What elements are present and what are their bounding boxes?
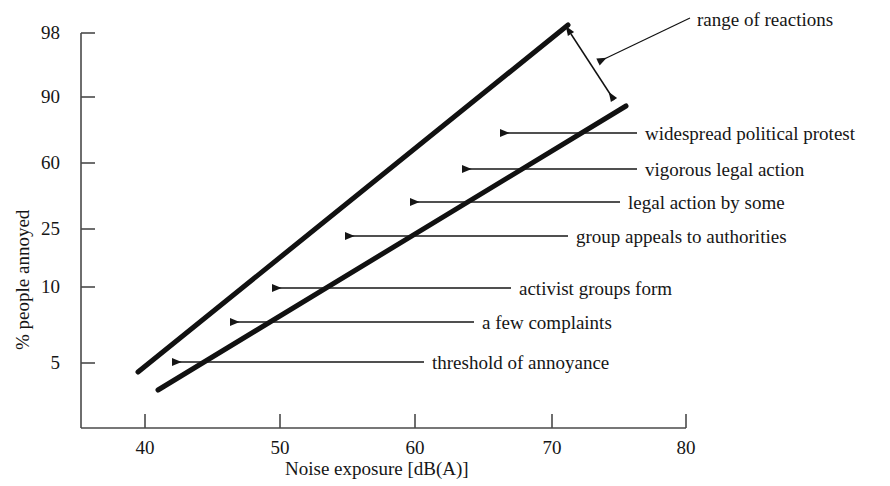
annotation-threshold-of-annoyance: threshold of annoyance bbox=[432, 353, 609, 372]
reaction-band bbox=[138, 25, 626, 390]
y-tick-label-90: 90 bbox=[14, 86, 60, 108]
chart-figure: 98 90 60 25 10 5 40 50 60 70 80 % people… bbox=[0, 0, 890, 486]
range-arrow-shaft bbox=[571, 34, 614, 100]
x-tick-label-70: 70 bbox=[529, 437, 575, 459]
x-tick-label-60: 60 bbox=[392, 437, 438, 459]
annotation-group-appeals-to-authorities: group appeals to authorities bbox=[576, 227, 787, 246]
annotation-range-of-reactions: range of reactions bbox=[697, 10, 833, 29]
lower-bound-line bbox=[158, 106, 626, 390]
x-tick-label-50: 50 bbox=[257, 437, 303, 459]
range-of-reactions-leader bbox=[598, 18, 690, 62]
range-of-reactions-double-arrow bbox=[571, 34, 614, 100]
annotation-activist-groups-form: activist groups form bbox=[519, 279, 672, 298]
annotation-vigorous-legal-action: vigorous legal action bbox=[645, 160, 804, 179]
annotation-a-few-complaints: a few complaints bbox=[482, 313, 612, 332]
annotation-widespread-political-protest: widespread political protest bbox=[645, 124, 855, 143]
range-leader-line bbox=[598, 18, 690, 62]
y-axis-title: % people annoyed bbox=[12, 210, 34, 350]
x-tick-label-40: 40 bbox=[122, 437, 168, 459]
y-tick-label-60: 60 bbox=[14, 152, 60, 174]
x-axis-ticks bbox=[145, 414, 686, 428]
y-axis-ticks bbox=[81, 33, 95, 363]
y-tick-label-5: 5 bbox=[14, 352, 60, 374]
x-tick-label-80: 80 bbox=[663, 437, 709, 459]
annotation-legal-action-by-some: legal action by some bbox=[628, 193, 785, 212]
x-axis-title: Noise exposure [dB(A)] bbox=[285, 458, 469, 480]
y-tick-label-98: 98 bbox=[14, 22, 60, 44]
